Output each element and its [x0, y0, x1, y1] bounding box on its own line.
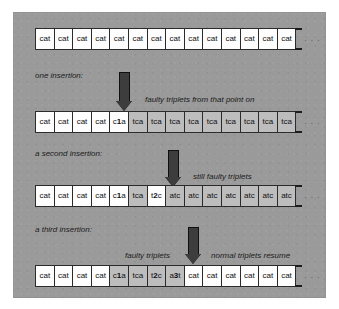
codon-cell: atc [221, 185, 241, 207]
codon-cell: cat [184, 265, 204, 287]
sequence-row-second-insertion: catcatcatcatc1atcat2catcatcatcatcatcatca… [35, 185, 321, 207]
codon-cell: cat [91, 265, 111, 287]
codon-cell: cat [72, 265, 92, 287]
codon-cell: cat [91, 185, 111, 207]
codon-cell: cat [258, 265, 278, 287]
ellipsis-label: . . . [304, 32, 320, 46]
sequence-row-third-insertion: catcatcatcatc1atcat2ca3tcatcatcatcatcatc… [35, 265, 321, 287]
ellipsis-label: . . . [304, 189, 320, 203]
sequence-end-bracket: . . . [295, 265, 321, 287]
codon-cell: cat [54, 265, 74, 287]
codon-cell: t2c [147, 265, 167, 287]
codon-cell: cat [35, 185, 55, 207]
diagram-panel: catcatcatcatcatcatcatcatcatcatcatcatcatc… [13, 12, 326, 298]
codon-cell: atc [165, 185, 185, 207]
codon-cell: atc [184, 185, 204, 207]
codon-cell: cat [165, 28, 185, 50]
codon-cell: t2c [147, 185, 167, 207]
codon-cell: tca [258, 111, 278, 133]
codon-cell: cat [202, 265, 222, 287]
bracket-icon [295, 111, 302, 133]
codon-cell: tca [147, 111, 167, 133]
bracket-icon [295, 28, 302, 50]
codon-cell: cat [277, 28, 297, 50]
label-third-insertion: a third insertion: [35, 225, 92, 235]
codon-cell: tca [240, 111, 260, 133]
codon-cell: tca [221, 111, 241, 133]
codon-cell: cat [128, 28, 148, 50]
codon-cell: cat [277, 265, 297, 287]
sequence-end-bracket: . . . [295, 185, 321, 207]
codon-cell: cat [221, 265, 241, 287]
codon-cell: tca [128, 111, 148, 133]
codon-cell: cat [240, 265, 260, 287]
bracket-icon [295, 265, 302, 287]
ellipsis-label: . . . [304, 269, 320, 283]
codon-cell: cat [202, 28, 222, 50]
codon-cell: cat [258, 28, 278, 50]
codon-cell: cat [109, 28, 129, 50]
codon-cell: cat [91, 28, 111, 50]
figure-root: catcatcatcatcatcatcatcatcatcatcatcatcatc… [0, 0, 339, 309]
codon-cell: cat [147, 28, 167, 50]
label-second-insertion: a second insertion: [35, 149, 102, 159]
codon-cell: tca [128, 185, 148, 207]
insertion-arrow-3 [185, 227, 202, 265]
codon-cell: cat [54, 28, 74, 50]
codon-cell: cat [72, 111, 92, 133]
codon-cell: cat [54, 185, 74, 207]
ellipsis-label: . . . [304, 115, 320, 129]
bracket-icon [295, 185, 302, 207]
label-faulty-triplets: faulty triplets [125, 251, 170, 261]
sequence-end-bracket: . . . [295, 28, 321, 50]
codon-cell: atc [240, 185, 260, 207]
codon-cell: atc [258, 185, 278, 207]
codon-cell: cat [35, 111, 55, 133]
codon-cell: tca [277, 111, 297, 133]
codon-cell: cat [35, 28, 55, 50]
codon-cell: cat [54, 111, 74, 133]
codon-cell: atc [277, 185, 297, 207]
codon-cell: c1a [109, 265, 129, 287]
codon-cell: cat [184, 28, 204, 50]
codon-cell: cat [35, 265, 55, 287]
sequence-row-original: catcatcatcatcatcatcatcatcatcatcatcatcatc… [35, 28, 321, 50]
codon-cell: cat [72, 28, 92, 50]
sequence-end-bracket: . . . [295, 111, 321, 133]
codon-cell: tca [184, 111, 204, 133]
codon-cell: cat [72, 185, 92, 207]
sequence-row-one-insertion: catcatcatcatc1atcatcatcatcatcatcatcatcat… [35, 111, 321, 133]
codon-cell: tca [202, 111, 222, 133]
codon-cell: atc [202, 185, 222, 207]
codon-cell: cat [91, 111, 111, 133]
codon-cell: tca [165, 111, 185, 133]
insertion-arrow-1 [116, 72, 133, 112]
codon-cell: cat [221, 28, 241, 50]
codon-cell: tca [128, 265, 148, 287]
codon-cell: c1a [109, 185, 129, 207]
codon-cell: a3t [165, 265, 185, 287]
label-one-insertion: one insertion: [35, 71, 83, 81]
codon-cell: c1a [109, 111, 129, 133]
label-faulty-from-point: faulty triplets from that point on [145, 95, 254, 105]
insertion-arrow-2 [165, 150, 182, 188]
label-still-faulty: still faulty triplets [193, 172, 252, 182]
codon-cell: cat [240, 28, 260, 50]
label-normal-resume: normal triplets resume [211, 251, 290, 261]
